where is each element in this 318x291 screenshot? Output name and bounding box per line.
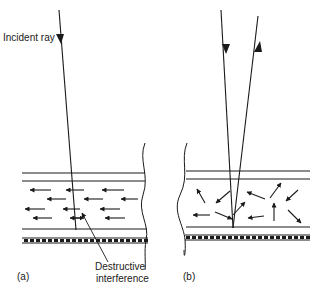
diagram-canvas: Incident ray Destructive interference (a…	[0, 0, 318, 291]
break-edge-b	[177, 143, 187, 255]
panel-a: Incident ray Destructive interference (a…	[3, 10, 149, 284]
panel-b: (b)	[177, 10, 310, 282]
break-edge-a	[141, 143, 146, 270]
reflected-ray-b	[233, 16, 258, 228]
layer-boundaries-a	[22, 173, 148, 243]
destructive-interference-label-line2: interference	[96, 273, 149, 284]
substrate-hatch-b	[186, 236, 310, 239]
substrate-hatch-a	[23, 239, 148, 242]
destructive-interference-label-line1: Destructive	[95, 261, 145, 272]
incident-ray	[59, 10, 76, 230]
panel-a-label: (a)	[17, 271, 29, 282]
aligned-arrows-a	[25, 190, 138, 218]
incident-ray-b	[221, 10, 233, 228]
layer-boundaries-b	[185, 171, 310, 240]
panel-b-label: (b)	[183, 271, 195, 282]
incident-ray-arrowhead-icon	[56, 34, 64, 44]
random-arrows-b	[193, 183, 301, 223]
incident-ray-label: Incident ray	[3, 32, 55, 43]
